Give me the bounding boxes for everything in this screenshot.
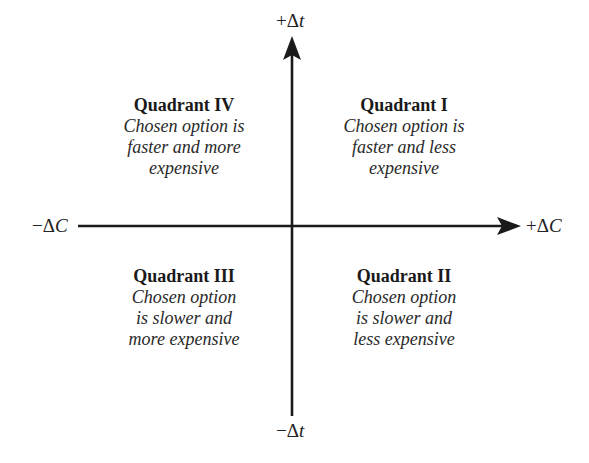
quadrant-diagram: +Δt −Δt −ΔC +ΔC Quadrant IV Chosen optio… xyxy=(0,0,589,463)
x-positive-label: +ΔC xyxy=(526,216,562,235)
variable: C xyxy=(549,215,562,236)
quadrant-title: Quadrant IV xyxy=(74,95,294,116)
quadrant-iii: Quadrant III Chosen option is slower and… xyxy=(74,266,294,350)
delta-symbol: Δ xyxy=(287,420,299,441)
variable: C xyxy=(55,215,68,236)
quadrant-iv: Quadrant IV Chosen option is faster and … xyxy=(74,95,294,179)
sign: + xyxy=(526,215,537,236)
x-negative-label: −ΔC xyxy=(32,216,68,235)
quadrant-desc-line: Chosen option is xyxy=(294,116,514,137)
quadrant-desc-line: Chosen option xyxy=(74,287,294,308)
quadrant-desc-line: expensive xyxy=(294,158,514,179)
quadrant-i: Quadrant I Chosen option is faster and l… xyxy=(294,95,514,179)
axes-graphic xyxy=(0,0,589,463)
delta-symbol: Δ xyxy=(287,10,299,31)
quadrant-title: Quadrant II xyxy=(294,266,514,287)
variable: t xyxy=(299,420,304,441)
quadrant-desc-line: more expensive xyxy=(74,329,294,350)
quadrant-desc-line: expensive xyxy=(74,158,294,179)
quadrant-desc-line: less expensive xyxy=(294,329,514,350)
quadrant-title: Quadrant I xyxy=(294,95,514,116)
variable: t xyxy=(299,10,304,31)
sign: + xyxy=(276,10,287,31)
quadrant-desc-line: faster and more xyxy=(74,137,294,158)
quadrant-desc-line: faster and less xyxy=(294,137,514,158)
quadrant-ii: Quadrant II Chosen option is slower and … xyxy=(294,266,514,350)
delta-symbol: Δ xyxy=(43,215,55,236)
quadrant-desc-line: is slower and xyxy=(294,308,514,329)
sign: − xyxy=(276,420,287,441)
quadrant-desc-line: Chosen option xyxy=(294,287,514,308)
quadrant-desc-line: Chosen option is xyxy=(74,116,294,137)
quadrant-desc-line: is slower and xyxy=(74,308,294,329)
sign: − xyxy=(32,215,43,236)
delta-symbol: Δ xyxy=(537,215,549,236)
y-negative-label: −Δt xyxy=(276,421,304,440)
quadrant-title: Quadrant III xyxy=(74,266,294,287)
y-positive-label: +Δt xyxy=(276,11,304,30)
